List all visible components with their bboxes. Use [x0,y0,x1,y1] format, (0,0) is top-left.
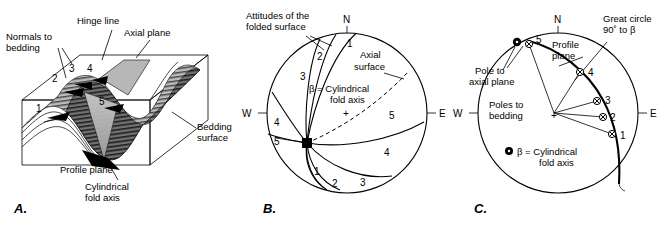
normal-number-2: 2 [52,73,58,84]
pole-number-2: 2 [610,112,616,123]
great-circle-90-label-line2: 90˚ to β [603,24,636,35]
pole-number-5: 5 [536,34,542,45]
pole-number-1: 1 [620,130,626,141]
poles-to-bedding-label-line1: Poles to [489,99,523,110]
compass-north-b: N [343,14,350,25]
pole-marker-4 [576,68,583,75]
gc-number-upper-2: 2 [317,51,323,62]
normals-to-bedding-label-line1: Normals to [6,31,52,42]
great-circle-5 [268,122,424,145]
normal-number-4: 4 [87,63,93,74]
pole-marker-3 [593,97,600,104]
gc-number-lower-2: 2 [332,178,338,189]
pole-to-axial-plane-label-line1: Pole to [475,65,505,76]
profile-plane-label-line1: Profile [552,39,579,50]
center-cross-b: + [343,108,349,119]
pole-to-axial-plane-marker [513,38,521,46]
normals-to-bedding-label-line2: bedding [6,42,40,53]
beta-legend-marker [505,147,513,155]
normal-number-5: 5 [99,96,105,107]
panel-a-block-diagram: 1 2 3 4 5 Hinge line Axial plane Normals… [0,0,232,231]
cylindrical-fold-axis-label-line1: Cylindrical [85,181,129,192]
panel-b-label: B. [263,201,276,216]
beta-label-line2: fold axis [330,94,365,105]
panel-c-label: C. [474,201,487,216]
pole-marker-5 [525,40,532,47]
pole-number-3: 3 [605,95,611,106]
compass-west-c: W [453,108,463,119]
gc-number-upper-3: 3 [300,71,306,82]
gc-number-right-5: 5 [389,110,395,121]
great-circle-90-to-beta-tail [619,184,625,191]
great-circle-90-label-line1: Great circle [603,13,652,24]
axial-plane-label: Axial plane [124,27,170,38]
panel-b-stereonet-great-circles: N W E + [232,0,447,231]
profile-plane-label-line2: plane [552,50,575,61]
beta-legend-label-line1: β = Cylindrical [517,146,577,157]
gc-number-upper-1: 1 [347,38,353,49]
poles-to-bedding-label-line2: bedding [489,110,523,121]
compass-east-c: E [650,108,657,119]
figure-cylindrical-fold: 1 2 3 4 5 Hinge line Axial plane Normals… [0,0,662,231]
attitudes-label-line1: Attitudes of the [246,10,309,21]
cylindrical-fold-axis-label-line2: fold axis [85,192,120,203]
gc-number-lower-1: 1 [314,166,320,177]
gc-number-left-5: 5 [274,136,280,147]
normal-number-3: 3 [69,63,75,74]
pole-marker-2 [599,113,606,120]
compass-west-b: W [242,108,252,119]
pole-to-axial-plane-label-line2: axial plane [469,76,514,87]
center-cross-c: + [551,110,557,121]
beta-point-b [276,138,312,148]
beta-label-line1: β = Cylindrical [309,83,369,94]
pole-number-4: 4 [588,67,594,78]
hinge-line-label: Hinge line [77,15,119,26]
gc-number-right-4: 4 [384,147,390,158]
gc-number-lower-3: 3 [360,177,366,188]
panel-a-label: A. [13,201,27,216]
compass-north-c: N [554,14,561,25]
beta-legend-label-line2: fold axis [539,157,574,168]
panel-c-stereonet-poles: N W E + [447,0,662,231]
profile-plane-label: Profile plane [60,164,113,175]
pole-marker-1 [608,130,615,137]
bedding-surface-label-line2: surface [197,132,228,143]
bedding-surface-label-line1: Bedding [197,121,232,132]
gc-number-left-4: 4 [274,117,280,128]
axial-surface-label-line1: Axial [360,49,381,60]
compass-east-b: E [439,108,446,119]
axial-surface-label-line2: surface [354,61,385,72]
attitudes-label-line2: folded surface [246,21,306,32]
normal-number-1: 1 [36,103,42,114]
